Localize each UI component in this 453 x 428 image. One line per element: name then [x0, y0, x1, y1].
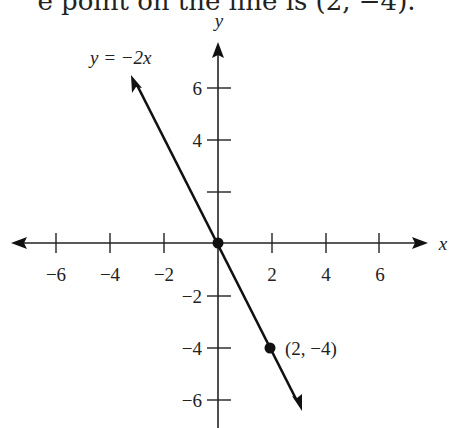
x-tick-label: 6: [375, 264, 385, 285]
y-tick-label: −6: [182, 390, 202, 411]
x-tick-labels: −6 −4 −2 2 4 6: [46, 264, 385, 285]
coordinate-plane: −6 −4 −2 2 4 6 6 4 −2 −4 −6 x y (2, −4) …: [0, 0, 453, 428]
x-tick-label: 4: [321, 264, 331, 285]
x-axis-label: x: [438, 233, 448, 254]
y-tick-label: −4: [182, 338, 203, 359]
x-tick-label: −4: [100, 264, 121, 285]
point-2-neg4: [265, 343, 276, 354]
y-tick-label: −2: [182, 286, 202, 307]
y-axis-label: y: [213, 10, 224, 31]
x-tick-label: −2: [154, 264, 174, 285]
equation-label: y = −2x: [88, 47, 152, 68]
y-tick-label: 6: [193, 78, 203, 99]
x-tick-label: 2: [267, 264, 277, 285]
point-label: (2, −4): [285, 338, 337, 360]
x-tick-label: −6: [46, 264, 66, 285]
origin-point: [213, 238, 224, 249]
y-tick-labels: 6 4 −2 −4 −6: [182, 78, 203, 411]
y-tick-label: 4: [193, 130, 203, 151]
